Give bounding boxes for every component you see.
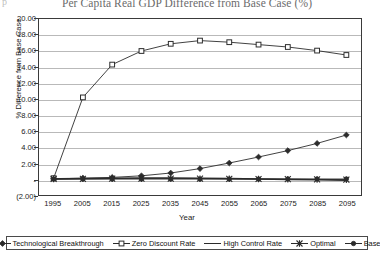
legend-item[interactable]: Optimal [291,239,335,248]
data-point-marker-square [198,38,203,43]
data-point-marker-square [110,62,115,67]
legend-item[interactable]: Zero Discount Rate [113,239,196,248]
data-point-marker-square [227,40,232,45]
data-point-marker-circle [110,177,114,181]
data-point-marker-diamond [0,240,5,246]
y-axis-title: % Difference from Base Case [14,4,23,134]
legend-label: High Control Rate [223,239,282,248]
data-point-marker-diamond [226,160,232,166]
y-axis-tick-label: - [2,175,36,184]
legend-item[interactable]: Base [345,239,380,248]
data-point-marker-circle [286,177,290,181]
legend-label: Base [364,239,380,248]
data-point-marker-circle [169,177,173,181]
legend-label: Technological Breakthrough [13,239,104,248]
legend-key-circle-icon [345,239,362,248]
data-point-marker-asterisk [297,240,303,247]
data-point-marker-circle [256,177,260,181]
data-point-marker-square [81,95,86,100]
data-point-marker-circle [139,177,143,181]
data-point-marker-square [168,41,173,46]
data-point-marker-circle [351,241,355,245]
data-point-marker-circle [198,177,202,181]
data-point-marker-circle [227,177,231,181]
plot-area [38,18,362,196]
data-point-marker-circle [315,177,319,181]
data-point-marker-square [256,42,261,47]
data-point-marker-diamond [256,154,262,160]
y-axis-tick-label: 2.00 [2,159,36,168]
data-point-marker-square [139,49,144,54]
legend-key-diamond-icon [0,239,11,248]
series-line [54,135,347,179]
legend-label: Optimal [310,239,335,248]
series-technological-breakthrough [51,132,349,181]
legend-label: Zero Discount Rate [132,239,196,248]
data-point-marker-circle [344,177,348,181]
y-axis-tick-label: 4.00 [2,143,36,152]
data-point-marker-diamond [197,166,203,172]
x-axis-title: Year [0,213,374,222]
data-point-marker-diamond [343,132,349,138]
data-point-marker-square [285,45,290,50]
legend-key-none-icon [204,239,221,248]
legend-item[interactable]: High Control Rate [204,239,282,248]
legend-key-square-icon [113,239,130,248]
data-point-marker-circle [81,177,85,181]
legend-item[interactable]: Technological Breakthrough [0,239,104,248]
data-point-marker-diamond [168,170,174,176]
data-point-marker-square [315,48,320,53]
data-point-marker-square [344,53,349,58]
chart-legend: Technological BreakthroughZero Discount … [6,236,368,250]
legend-key-asterisk-icon [291,239,308,248]
series-zero-discount-rate [51,38,348,180]
x-axis-tick-labels: 1995200520152025203520452055206520752085… [38,199,362,211]
chart-title: Per Capita Real GDP Difference from Base… [0,0,374,9]
data-point-marker-diamond [314,141,320,147]
x-axis-tick-label: 2095 [327,199,367,208]
data-point-marker-square [119,241,124,246]
data-point-marker-circle [51,177,55,181]
y-axis-tick-mark [34,196,38,197]
series-line [54,41,347,179]
y-axis-tick-label: (2.00) [2,192,36,201]
series-layer [39,19,361,195]
data-point-marker-diamond [285,148,291,154]
